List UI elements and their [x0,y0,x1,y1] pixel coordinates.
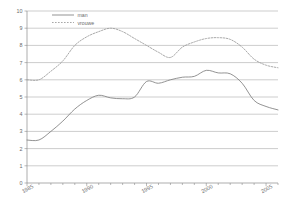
y-tick-label: 4 [20,111,23,117]
y-tick-label: 7 [20,60,23,66]
y-tick-label: 0 [20,180,23,186]
x-tick-label: 1990 [81,183,94,194]
chart-canvas: 012345678910 19851990199520002005 manvro… [0,0,282,215]
legend-label-vrouwe: vrouwe [78,20,95,26]
line-chart: 012345678910 19851990199520002005 manvro… [0,0,282,215]
x-tick-label: 1985 [21,183,34,194]
y-tick-label: 1 [20,163,23,169]
gridlines [27,11,278,166]
y-tick-label: 10 [17,8,23,14]
y-tick-label: 3 [20,128,23,134]
y-tick-label: 2 [20,146,23,152]
x-axis-ticks: 19851990199520002005 [21,183,278,194]
chart-legend: manvrouwe [52,12,94,26]
y-tick-label: 5 [20,94,23,100]
x-tick-label: 1995 [140,183,153,194]
y-tick-label: 9 [20,25,23,31]
x-tick-label: 2005 [260,183,273,194]
y-axis-ticks: 012345678910 [17,8,28,186]
x-tick-label: 2000 [200,183,213,194]
legend-label-man: man [78,12,88,18]
series-line-man [27,70,278,140]
y-tick-label: 8 [20,42,23,48]
series-line-vrouwe [27,28,278,80]
data-series-group [27,28,278,140]
y-tick-label: 6 [20,77,23,83]
